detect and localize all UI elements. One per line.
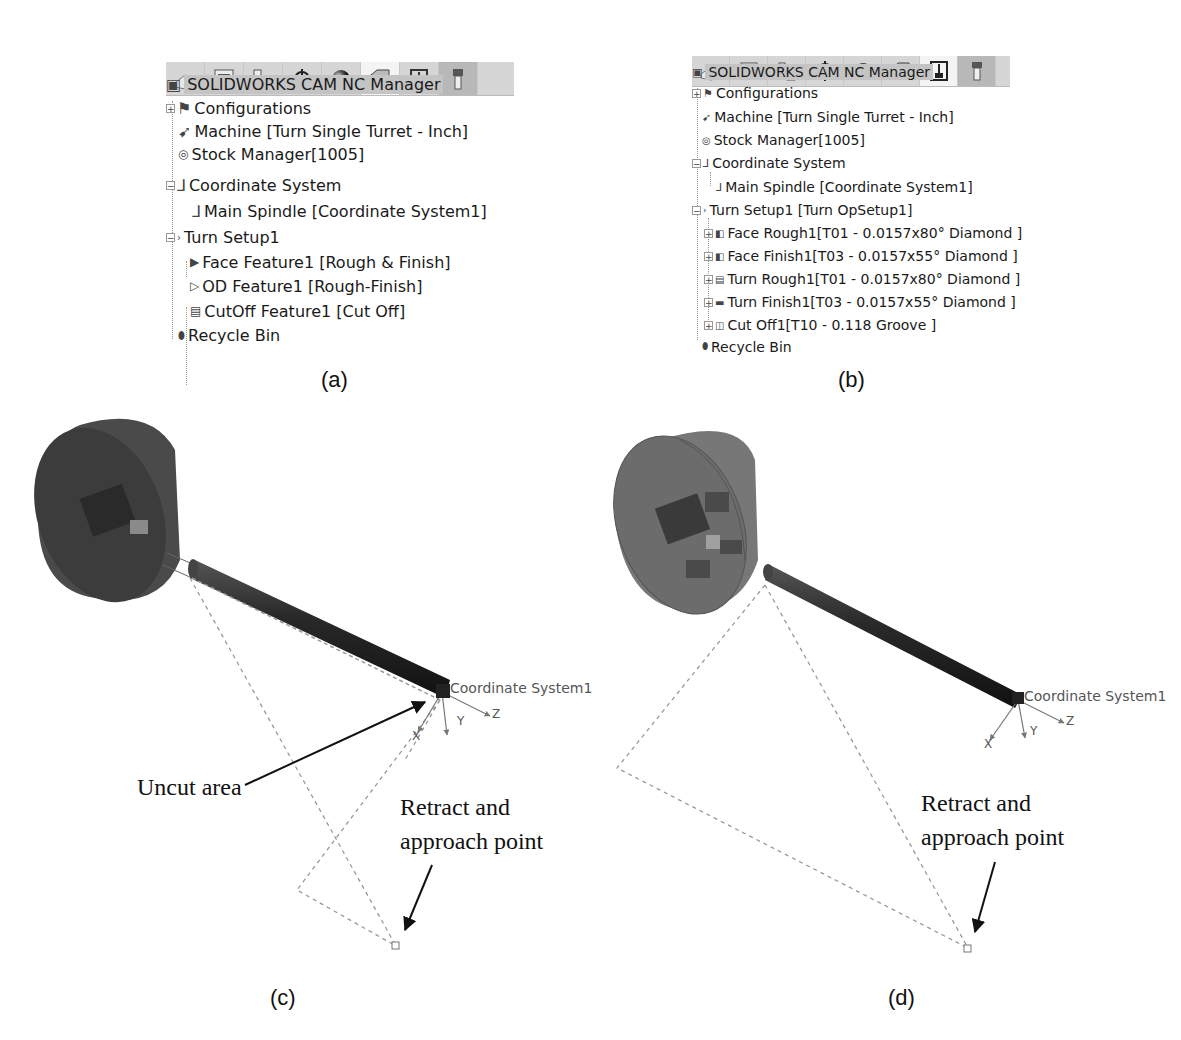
workpiece-rod: [188, 559, 450, 698]
z-axis-label: Z: [1066, 714, 1074, 728]
retract-point-marker: [964, 945, 971, 952]
panel-d-caption: (d): [888, 985, 915, 1011]
coordinate-system-d: [990, 700, 1064, 740]
retract-arrow-d: [975, 862, 995, 932]
panel-d-retract-label-2: approach point: [921, 822, 1064, 852]
panel-c-scene: Z Y X: [11, 409, 500, 949]
panel-d-scene: Z Y X: [590, 417, 1074, 952]
y-axis-label: Y: [1029, 724, 1038, 738]
x-axis-label: X: [984, 737, 992, 751]
retract-point-marker: [392, 942, 399, 949]
retract-arrow-c: [405, 865, 432, 930]
panel-d-csys-label: Coordinate System1: [1024, 688, 1166, 704]
toolpath-d: [617, 585, 968, 948]
coordinate-system-c: [418, 692, 490, 735]
z-axis-label: Z: [492, 707, 500, 721]
uncut-area-label: Uncut area: [137, 772, 242, 802]
panel-c-retract-label-2: approach point: [400, 826, 543, 856]
cam-3d-views: Z Y X Z Y: [0, 0, 1181, 1040]
uncut-area-arrow: [245, 702, 425, 785]
panel-c-csys-label: Coordinate System1: [450, 680, 592, 696]
chuck-body: [11, 409, 189, 621]
workpiece-rod-d: [763, 564, 1022, 708]
panel-c-caption: (c): [270, 985, 296, 1011]
chuck-body-translucent: [590, 417, 769, 632]
y-axis-label: Y: [456, 714, 465, 728]
panel-c-retract-label-1: Retract and: [400, 792, 510, 822]
x-axis-label: X: [412, 729, 420, 743]
panel-d-retract-label-1: Retract and: [921, 788, 1031, 818]
